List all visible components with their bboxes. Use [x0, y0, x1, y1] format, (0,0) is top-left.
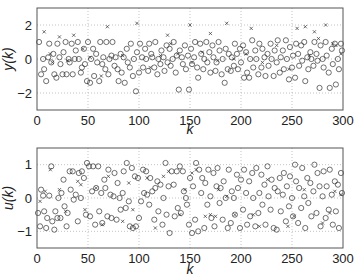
circle-marker: [257, 190, 262, 195]
y-tick-labels: −101: [17, 157, 32, 239]
cross-marker: [149, 66, 152, 69]
cross-marker: [51, 61, 54, 64]
circle-marker: [82, 62, 87, 67]
circle-marker: [271, 73, 276, 78]
circle-marker: [208, 194, 213, 199]
circle-marker: [174, 53, 179, 58]
circle-marker: [292, 75, 297, 80]
circle-marker: [110, 39, 115, 44]
circle-marker: [254, 165, 259, 170]
circle-marker: [314, 210, 319, 215]
circle-marker: [223, 46, 228, 51]
circle-marker: [78, 70, 83, 75]
circle-marker: [296, 51, 301, 56]
y-tick-label: 1: [25, 157, 32, 172]
cross-marker: [38, 200, 41, 203]
circle-marker: [158, 182, 163, 187]
cross-marker: [107, 175, 110, 178]
y-tick-label: 0: [25, 52, 32, 67]
circle-marker: [265, 164, 270, 169]
circle-marker: [250, 170, 255, 175]
circle-marker: [234, 172, 239, 177]
circle-marker: [272, 185, 277, 190]
circle-marker: [221, 179, 226, 184]
y-tick-label: 0: [25, 191, 32, 206]
circle-marker: [150, 55, 155, 60]
cross-marker: [304, 25, 307, 28]
circle-marker: [185, 53, 190, 58]
circle-marker: [122, 80, 127, 85]
circle-marker: [156, 209, 161, 214]
cross-marker: [250, 27, 253, 30]
circle-marker: [114, 217, 119, 222]
circle-marker: [188, 46, 193, 51]
circle-marker: [247, 75, 252, 80]
circle-marker: [219, 72, 224, 77]
circle-marker: [128, 41, 133, 46]
circle-marker: [133, 224, 138, 229]
circle-marker: [235, 67, 240, 72]
circle-marker: [58, 62, 63, 67]
circle-marker: [95, 60, 100, 65]
circle-marker: [299, 205, 304, 210]
cross-marker: [225, 22, 228, 25]
cross-marker: [127, 181, 130, 184]
circle-marker: [121, 169, 126, 174]
circle-marker: [73, 192, 78, 197]
circle-marker: [245, 70, 250, 75]
circle-marker: [318, 224, 323, 229]
circle-marker: [129, 165, 134, 170]
cross-marker: [258, 225, 261, 228]
circle-marker: [222, 80, 227, 85]
circle-marker: [162, 68, 167, 73]
circle-marker: [61, 50, 66, 55]
circle-marker: [130, 73, 135, 78]
y-tick-label: 2: [25, 18, 32, 33]
cross-marker: [303, 188, 306, 191]
circle-marker: [315, 170, 320, 175]
circle-marker: [76, 170, 81, 175]
circle-marker: [274, 60, 279, 65]
cross-marker: [43, 30, 46, 33]
circle-marker: [256, 72, 261, 77]
cross-marker: [317, 37, 320, 40]
circle-marker: [332, 179, 337, 184]
cross-marker: [121, 220, 124, 223]
circle-marker: [176, 87, 181, 92]
circle-marker: [215, 165, 220, 170]
circle-marker: [272, 48, 277, 53]
circle-marker: [106, 167, 111, 172]
cross-marker: [72, 34, 75, 37]
circle-marker: [61, 177, 66, 182]
circle-marker: [268, 207, 273, 212]
circle-marker: [280, 48, 285, 53]
circle-marker: [309, 214, 314, 219]
x-tick-labels: 050100150200250300: [33, 251, 353, 266]
circle-marker: [163, 160, 168, 165]
circle-marker: [299, 43, 304, 48]
circle-marker: [164, 43, 169, 48]
circle-marker: [47, 193, 52, 198]
circle-marker: [108, 192, 113, 197]
cross-marker: [286, 225, 289, 228]
circle-marker: [290, 214, 295, 219]
circle-marker: [260, 202, 265, 207]
circle-marker: [91, 46, 96, 51]
circle-marker: [155, 72, 160, 77]
circle-marker: [177, 164, 182, 169]
circle-marker: [75, 219, 80, 224]
circle-marker: [225, 67, 230, 72]
y-tick-label: −1: [17, 224, 32, 239]
circle-marker: [281, 170, 286, 175]
x-tick-label: 300: [332, 251, 354, 266]
circle-marker: [323, 39, 328, 44]
circle-marker: [124, 46, 129, 51]
cross-marker: [154, 226, 157, 229]
cross-marker: [204, 215, 207, 218]
circle-marker: [225, 225, 230, 230]
circle-marker: [38, 72, 43, 77]
cross-marker: [58, 35, 61, 38]
circle-marker: [81, 46, 86, 51]
circle-marker: [234, 51, 239, 56]
x-tick-label: 50: [81, 251, 95, 266]
